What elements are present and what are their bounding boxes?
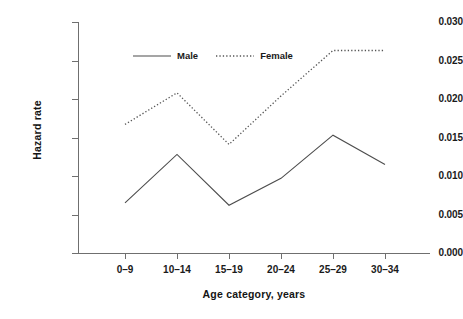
x-axis-tick-label: 15–19 — [203, 264, 255, 275]
series-line-male — [125, 135, 385, 205]
series-line-female — [125, 50, 385, 144]
x-axis-tick — [229, 253, 230, 259]
x-axis-tick — [125, 253, 126, 259]
legend-item-female: Female — [216, 51, 293, 60]
chart-legend: MaleFemale — [133, 51, 293, 60]
legend-swatch-female-icon — [216, 52, 254, 60]
x-axis-tick-label: 20–24 — [255, 264, 307, 275]
x-axis-line — [78, 253, 430, 254]
x-axis-tick-label: 0–9 — [99, 264, 151, 275]
x-axis-title: Age category, years — [78, 288, 430, 300]
x-axis-tick-label: 10–14 — [151, 264, 203, 275]
x-axis-tick-label: 30–34 — [359, 264, 411, 275]
x-axis-tick — [333, 253, 334, 259]
x-axis-tick — [281, 253, 282, 259]
x-axis-tick-label: 25–29 — [307, 264, 359, 275]
x-axis-tick — [177, 253, 178, 259]
x-axis-tick — [385, 253, 386, 259]
y-axis-title: Hazard rate — [31, 75, 43, 185]
legend-item-male: Male — [133, 51, 198, 60]
legend-swatch-male-icon — [133, 52, 171, 60]
hazard-rate-line-chart: 0.0000.0050.0100.0150.0200.0250.030 Haza… — [0, 0, 463, 319]
legend-label: Male — [177, 51, 198, 60]
legend-label: Female — [260, 51, 293, 60]
